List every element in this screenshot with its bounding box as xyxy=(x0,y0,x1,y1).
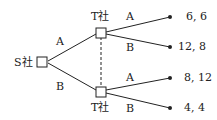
node-bottom-label: T社 xyxy=(91,100,109,114)
root-label: S社 xyxy=(14,55,33,69)
edge-top-b xyxy=(106,34,170,47)
node-top xyxy=(96,28,106,38)
edge-bottom-b xyxy=(106,93,170,108)
game-tree: S社 T社 T社 A B A B A B 6, 6 12, 8 8, 12 4,… xyxy=(0,0,217,120)
terminal-1 xyxy=(168,15,172,19)
payoff-4: 4, 4 xyxy=(184,101,205,114)
root-branch-b: B xyxy=(56,80,64,93)
terminal-3 xyxy=(168,76,172,80)
bottom-branch-a: A xyxy=(125,71,135,84)
node-top-label: T社 xyxy=(91,9,109,23)
edge-top-a xyxy=(106,17,170,32)
payoff-1: 6, 6 xyxy=(186,10,207,23)
top-branch-b: B xyxy=(126,41,134,54)
terminal-2 xyxy=(168,45,172,49)
payoff-3: 8, 12 xyxy=(184,71,212,84)
node-bottom xyxy=(96,87,106,97)
root-branch-a: A xyxy=(55,35,65,48)
terminal-4 xyxy=(168,106,172,110)
payoff-2: 12, 8 xyxy=(178,40,206,53)
edge-bottom-a xyxy=(106,78,170,90)
bottom-branch-b: B xyxy=(126,102,134,115)
top-branch-a: A xyxy=(125,10,135,23)
root-node xyxy=(37,57,47,67)
